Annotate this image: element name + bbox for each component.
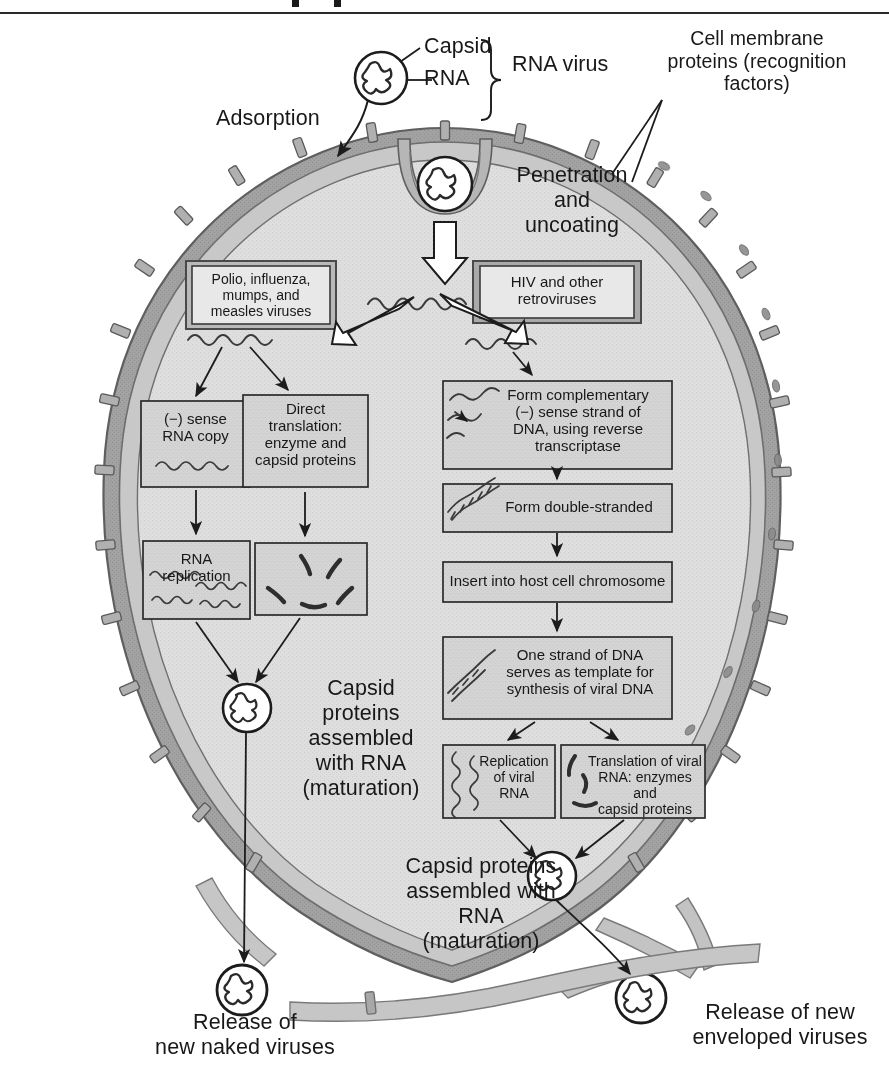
- text-insert-chromosome: Insert into host cell chromosome: [445, 572, 670, 589]
- label-right-maturation: Capsid proteins assembled with RNA (matu…: [378, 854, 584, 954]
- label-release-enveloped: Release of new enveloped viruses: [672, 1000, 888, 1050]
- label-capsid: Capsid: [424, 34, 492, 59]
- text-sense-rna-copy: (−) sense RNA copy: [141, 410, 250, 444]
- text-double-stranded: Form double-stranded: [490, 498, 668, 515]
- text-replication-viral-rna: Replication of viral RNA: [474, 754, 554, 802]
- box-capsid-proteins: [255, 543, 367, 615]
- leader-capsid: [400, 48, 420, 62]
- label-rna: RNA: [424, 66, 470, 91]
- label-release-naked: Release of new naked viruses: [110, 1010, 380, 1060]
- label-rna-virus: RNA virus: [512, 52, 608, 77]
- text-rna-replication: RNA replication: [143, 550, 250, 584]
- rna-virus-replication-figure: Capsid RNA RNA virus Adsorption Penetrat…: [0, 0, 889, 1075]
- virion-icon-released-enveloped: [616, 973, 666, 1023]
- virion-icon-left-maturation: [223, 684, 271, 732]
- label-membrane-proteins: Cell membrane proteins (recognition fact…: [628, 27, 886, 95]
- label-left-maturation: Capsid proteins assembled with RNA (matu…: [282, 676, 440, 801]
- text-right-virus-types: HIV and other retroviruses: [480, 273, 634, 307]
- virion-icon-legend: [355, 52, 407, 104]
- text-reverse-transcription: Form complementary (−) sense strand of D…: [488, 386, 668, 454]
- virion-icon-entering: [418, 157, 472, 211]
- text-dna-template: One strand of DNA serves as template for…: [492, 646, 668, 697]
- label-adsorption: Adsorption: [216, 106, 320, 131]
- text-left-virus-types: Polio, influenza, mumps, and measles vir…: [192, 272, 330, 320]
- label-penetration-uncoating: Penetration and uncoating: [472, 163, 672, 238]
- text-translation-viral-rna: Translation of viral RNA: enzymes and ca…: [588, 754, 702, 818]
- virion-icon-released-naked: [217, 965, 267, 1015]
- text-direct-translation: Direct translation: enzyme and capsid pr…: [243, 400, 368, 468]
